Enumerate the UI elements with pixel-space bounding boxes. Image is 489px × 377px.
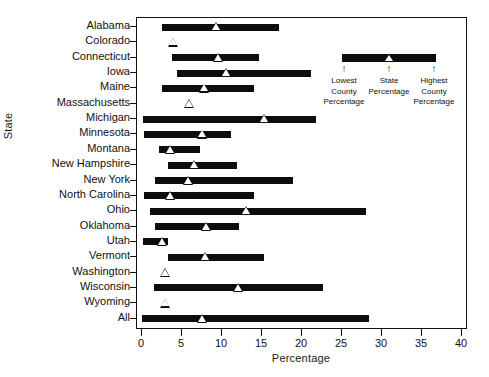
y-axis-category-label: Vermont (10, 250, 130, 261)
x-axis-tick (341, 329, 342, 336)
y-axis-category-label: Ohio (10, 204, 130, 215)
x-axis-tick (461, 329, 462, 336)
state-percentage-marker (200, 84, 208, 91)
state-percentage-marker (212, 23, 220, 30)
y-axis-category-label: Wyoming (10, 296, 130, 307)
x-axis-tick (261, 329, 262, 336)
y-axis-category-label: Oklahoma (10, 220, 130, 231)
state-percentage-marker (234, 284, 242, 291)
y-axis-category-label: Washington (10, 266, 130, 277)
x-axis-tick (381, 329, 382, 336)
x-axis-tick-label: 20 (281, 337, 321, 349)
state-percentage-marker (161, 269, 169, 276)
x-axis-tick-label: 35 (401, 337, 441, 349)
chart-legend: ↑ ↑ ↑ LowestCountyPercentage StatePercen… (330, 52, 480, 114)
legend-arrow-state-icon: ↑ (382, 64, 396, 74)
range-bar (144, 131, 230, 138)
range-bar (177, 70, 311, 77)
state-percentage-marker (158, 238, 166, 245)
x-axis-tick (181, 329, 182, 336)
range-bar (143, 116, 317, 123)
state-percentage-marker (222, 69, 230, 76)
y-axis-category-label: Utah (10, 235, 130, 246)
state-percentage-marker (214, 54, 222, 61)
chart-figure: State Percentage AlabamaColoradoConnecti… (0, 0, 489, 377)
y-axis-category-label: Minnesota (10, 127, 130, 138)
state-percentage-marker (198, 130, 206, 137)
range-bar (168, 254, 264, 261)
state-percentage-marker (161, 299, 169, 306)
legend-state-marker-icon (385, 55, 393, 61)
y-axis-category-label: North Carolina (10, 189, 130, 200)
x-axis-tick-label: 15 (241, 337, 281, 349)
range-bar (155, 223, 239, 230)
x-axis-tick (221, 329, 222, 336)
x-axis-tick-label: 40 (441, 337, 481, 349)
range-bar (155, 177, 293, 184)
y-axis-category-label: Alabama (10, 20, 130, 31)
y-axis-category-label: Wisconsin (10, 281, 130, 292)
state-percentage-marker (190, 161, 198, 168)
legend-arrow-highest-icon: ↑ (427, 64, 441, 74)
y-axis-category-labels: AlabamaColoradoConnecticutIowaMaineMassa… (8, 0, 130, 377)
state-percentage-marker (166, 146, 174, 153)
range-bar (150, 208, 366, 215)
range-bar (168, 162, 237, 169)
legend-caption-highest: HighestCountyPercentage (405, 76, 463, 108)
x-axis-tick-label: 10 (201, 337, 241, 349)
x-axis-tick-label: 25 (321, 337, 361, 349)
state-percentage-marker (185, 100, 193, 107)
state-percentage-marker (260, 115, 268, 122)
state-percentage-marker (166, 192, 174, 199)
y-axis-category-label: Iowa (10, 66, 130, 77)
y-axis-category-label: Maine (10, 81, 130, 92)
y-axis-category-label: New York (10, 174, 130, 185)
x-axis-tick (141, 329, 142, 336)
y-axis-category-label: Montana (10, 143, 130, 154)
y-axis-category-label: Colorado (10, 35, 130, 46)
y-axis-category-label: New Hampshire (10, 158, 130, 169)
state-percentage-marker (184, 177, 192, 184)
y-axis-category-label: Connecticut (10, 51, 130, 62)
state-percentage-marker (242, 207, 250, 214)
y-axis-category-label: Michigan (10, 112, 130, 123)
x-axis-tick (421, 329, 422, 336)
state-percentage-marker (201, 253, 209, 260)
x-axis-tick-label: 0 (121, 337, 161, 349)
legend-arrow-lowest-icon: ↑ (337, 64, 351, 74)
y-axis-category-label: Massachusetts (10, 97, 130, 108)
y-axis-category-label: All (10, 312, 130, 323)
x-axis-tick-label: 5 (161, 337, 201, 349)
range-bar (144, 192, 254, 199)
range-bar (142, 315, 369, 322)
x-axis-tick-label: 30 (361, 337, 401, 349)
x-axis-tick (301, 329, 302, 336)
state-percentage-marker (169, 38, 177, 45)
state-percentage-marker (198, 315, 206, 322)
x-axis-title: Percentage (141, 352, 461, 364)
state-percentage-marker (202, 223, 210, 230)
